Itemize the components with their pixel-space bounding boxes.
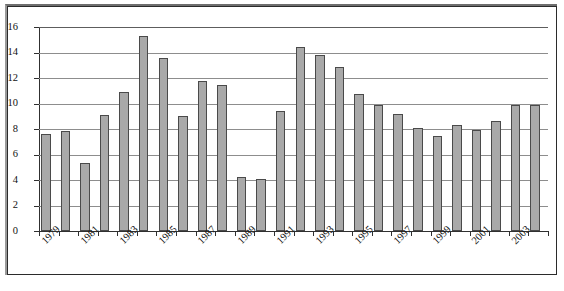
bar-1984 bbox=[139, 36, 149, 231]
x-tick-mark bbox=[352, 232, 353, 236]
y-tick-label: 4 bbox=[0, 175, 18, 186]
figure-frame: 1614121086420 19791981198319851987198919… bbox=[7, 6, 557, 275]
bar-1998 bbox=[413, 128, 423, 231]
bar-1983 bbox=[119, 92, 129, 231]
bar-1988 bbox=[217, 85, 227, 231]
gridline-14 bbox=[39, 53, 548, 54]
bar-1989 bbox=[237, 177, 247, 231]
y-tick-mark-14 bbox=[34, 53, 39, 54]
x-tick-mark bbox=[509, 232, 510, 236]
y-tick-label: 12 bbox=[0, 73, 18, 84]
y-tick-mark-4 bbox=[34, 180, 39, 181]
gridline-12 bbox=[39, 78, 548, 79]
y-tick-label: 10 bbox=[0, 98, 18, 109]
bar-1982 bbox=[100, 115, 110, 231]
bar-1990 bbox=[256, 179, 266, 231]
bar-1996 bbox=[374, 105, 384, 231]
bar-2004 bbox=[530, 105, 540, 231]
x-tick-mark bbox=[78, 232, 79, 236]
bar-2000 bbox=[452, 125, 462, 231]
y-tick-mark-12 bbox=[34, 78, 39, 79]
y-tick-label: 8 bbox=[0, 124, 18, 135]
y-tick-label: 2 bbox=[0, 200, 18, 211]
x-tick-mark bbox=[117, 232, 118, 236]
y-tick-mark-6 bbox=[34, 155, 39, 156]
x-tick-mark bbox=[235, 232, 236, 236]
bar-1985 bbox=[159, 58, 169, 231]
y-tick-mark-10 bbox=[34, 104, 39, 105]
y-tick-mark-8 bbox=[34, 129, 39, 130]
bar-1986 bbox=[178, 116, 188, 231]
bar-2001 bbox=[472, 130, 482, 231]
x-tick-mark bbox=[39, 232, 40, 236]
bar-1999 bbox=[433, 136, 443, 231]
x-tick-mark bbox=[156, 232, 157, 236]
gridline-10 bbox=[39, 104, 548, 105]
bar-1993 bbox=[315, 55, 325, 231]
bar-1997 bbox=[393, 114, 403, 231]
x-tick-mark bbox=[313, 232, 314, 236]
y-tick-label: 6 bbox=[0, 149, 18, 160]
y-tick-label: 0 bbox=[0, 226, 18, 237]
bar-1995 bbox=[354, 94, 364, 231]
bar-1980 bbox=[61, 131, 71, 231]
y-tick-label: 16 bbox=[0, 22, 18, 33]
bar-1994 bbox=[335, 67, 345, 231]
bar-chart: 1614121086420 19791981198319851987198919… bbox=[8, 7, 556, 274]
bar-1981 bbox=[80, 163, 90, 231]
x-tick-mark bbox=[548, 232, 549, 236]
bar-2002 bbox=[491, 121, 501, 231]
bar-1987 bbox=[198, 81, 208, 231]
bar-2003 bbox=[511, 105, 521, 231]
bar-1979 bbox=[41, 134, 51, 231]
bar-1991 bbox=[276, 111, 286, 231]
bar-1992 bbox=[296, 47, 306, 231]
gridline-16 bbox=[39, 27, 548, 28]
x-tick-mark bbox=[391, 232, 392, 236]
y-tick-mark-16 bbox=[34, 27, 39, 28]
x-tick-mark bbox=[274, 232, 275, 236]
y-tick-mark-2 bbox=[34, 206, 39, 207]
y-tick-label: 14 bbox=[0, 47, 18, 58]
